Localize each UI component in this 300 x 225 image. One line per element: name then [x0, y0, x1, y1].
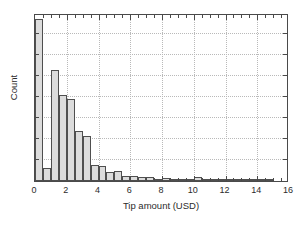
y-tick-left: [35, 75, 39, 76]
gridline-vertical: [194, 15, 195, 181]
x-tick-bottom: [281, 178, 282, 181]
x-tick-bottom: [265, 178, 266, 181]
histogram-bar: [114, 171, 122, 181]
histogram-bar: [265, 179, 273, 181]
x-tick-top: [99, 15, 100, 20]
histogram-bar: [122, 176, 130, 181]
y-tick-right: [283, 96, 287, 97]
x-tick-label: 12: [215, 185, 235, 195]
gridline-vertical: [257, 15, 258, 181]
gridline-vertical: [99, 15, 100, 181]
x-tick-top: [186, 15, 187, 18]
x-tick-bottom: [194, 176, 195, 181]
x-tick-top: [43, 15, 44, 18]
y-tick-left: [35, 96, 39, 97]
histogram-bar: [170, 179, 178, 181]
x-tick-top: [146, 15, 147, 18]
x-axis-label: Tip amount (USD): [34, 200, 288, 211]
x-tick-top: [241, 15, 242, 18]
x-tick-top: [233, 15, 234, 18]
gridline-horizontal: [35, 96, 287, 97]
x-tick-top: [178, 15, 179, 18]
x-tick-top: [59, 15, 60, 18]
y-tick-left: [35, 54, 39, 55]
x-tick-bottom: [138, 178, 139, 181]
histogram-figure: 0246810121416 Tip amount (USD) Count: [0, 0, 300, 225]
x-tick-top: [194, 15, 195, 20]
histogram-bar: [106, 172, 114, 181]
x-tick-bottom: [170, 178, 171, 181]
histogram-bar: [210, 179, 218, 181]
x-tick-bottom: [257, 176, 258, 181]
x-tick-label: 14: [246, 185, 266, 195]
x-tick-bottom: [43, 178, 44, 181]
x-tick-bottom: [106, 178, 107, 181]
y-tick-left: [35, 159, 39, 160]
histogram-bar: [186, 179, 194, 181]
x-tick-bottom: [91, 178, 92, 181]
histogram-bar: [51, 70, 59, 181]
x-tick-top: [210, 15, 211, 18]
histogram-bar: [83, 136, 91, 181]
y-axis-label: Count: [8, 58, 19, 118]
x-tick-label: 6: [119, 185, 139, 195]
gridline-vertical: [130, 15, 131, 181]
x-tick-top: [257, 15, 258, 20]
gridline-horizontal: [35, 33, 287, 34]
x-tick-top: [83, 15, 84, 18]
y-tick-right: [283, 117, 287, 118]
plot-area: [34, 14, 288, 182]
x-tick-bottom: [249, 178, 250, 181]
x-tick-bottom: [59, 178, 60, 181]
histogram-bar: [43, 168, 51, 181]
x-tick-bottom: [154, 178, 155, 181]
x-tick-top: [75, 15, 76, 18]
x-tick-label: 0: [24, 185, 44, 195]
x-tick-top: [273, 15, 274, 18]
y-tick-right: [283, 33, 287, 34]
x-tick-top: [114, 15, 115, 18]
x-tick-bottom: [162, 176, 163, 181]
x-tick-bottom: [186, 178, 187, 181]
histogram-bar: [249, 179, 257, 181]
x-tick-bottom: [233, 178, 234, 181]
histogram-bar: [146, 177, 154, 181]
x-tick-top: [162, 15, 163, 20]
histogram-bar: [59, 95, 67, 181]
x-tick-label: 8: [151, 185, 171, 195]
histogram-bar: [202, 179, 210, 181]
histogram-bar: [130, 176, 138, 181]
x-tick-bottom: [241, 178, 242, 181]
y-tick-left: [35, 117, 39, 118]
x-tick-top: [122, 15, 123, 18]
y-tick-right: [283, 54, 287, 55]
x-tick-label: 4: [88, 185, 108, 195]
x-tick-label: 16: [278, 185, 298, 195]
x-tick-top: [51, 15, 52, 18]
histogram-bar: [99, 166, 107, 181]
x-tick-bottom: [99, 176, 100, 181]
histogram-bar: [218, 179, 226, 181]
x-tick-top: [202, 15, 203, 18]
x-tick-bottom: [226, 176, 227, 181]
x-tick-top: [154, 15, 155, 18]
histogram-bar: [233, 179, 241, 181]
x-tick-bottom: [218, 178, 219, 181]
x-tick-top: [130, 15, 131, 20]
histogram-bar: [35, 19, 43, 181]
x-tick-bottom: [122, 178, 123, 181]
y-tick-right: [283, 75, 287, 76]
x-tick-bottom: [130, 176, 131, 181]
histogram-bar: [154, 179, 162, 181]
histogram-bar: [226, 179, 234, 181]
histogram-bar: [162, 178, 170, 181]
x-tick-top: [281, 15, 282, 18]
y-tick-right: [283, 159, 287, 160]
x-tick-top: [106, 15, 107, 18]
x-tick-bottom: [75, 178, 76, 181]
x-tick-top: [170, 15, 171, 18]
histogram-bar: [91, 165, 99, 181]
histogram-bar: [67, 99, 75, 181]
x-tick-bottom: [114, 178, 115, 181]
x-tick-top: [265, 15, 266, 18]
